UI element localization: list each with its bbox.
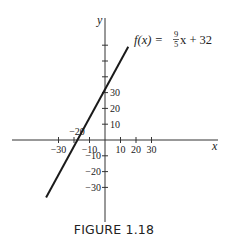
y-tick-label: −20 xyxy=(85,166,101,177)
figure-caption: FIGURE 1.18 xyxy=(0,222,228,237)
y-axis-label: y xyxy=(96,13,103,27)
y-tick-label: 20 xyxy=(110,103,120,114)
equation-rhs: x + 32 xyxy=(180,33,212,47)
y-tick-label: −10 xyxy=(85,150,101,161)
chart-figure: −30−10102030−30−20−10102030−20 x y f(x) … xyxy=(0,0,228,243)
x-tick-label: 30 xyxy=(147,144,157,155)
y-tick-label: −30 xyxy=(85,182,101,193)
equation-lhs: f(x) = xyxy=(134,33,163,47)
y-tick-label: 30 xyxy=(110,87,120,98)
x-tick-label: 10 xyxy=(116,144,126,155)
x-tick-label: 20 xyxy=(131,144,141,155)
equation-fraction-numerator: 9 xyxy=(174,29,178,39)
x-axis-label: x xyxy=(211,139,218,153)
x-tick-label: −30 xyxy=(51,144,67,155)
equation-label: f(x) = 9 5 x + 32 xyxy=(134,29,212,49)
y-tick-label: 10 xyxy=(110,119,120,130)
equation-fraction-denominator: 5 xyxy=(174,39,178,49)
